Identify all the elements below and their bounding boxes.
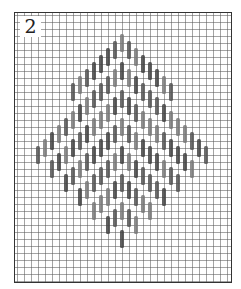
stitch <box>50 132 54 150</box>
stitch <box>113 125 117 143</box>
stitch <box>155 69 159 87</box>
stitch <box>92 118 96 136</box>
stitch <box>162 132 166 150</box>
stitch <box>134 216 138 234</box>
stitch <box>99 139 103 157</box>
stitch <box>120 146 124 164</box>
stitch <box>106 132 110 150</box>
stitch <box>148 174 152 192</box>
stitch <box>127 181 131 199</box>
stitch <box>99 111 103 129</box>
stitch <box>71 139 75 157</box>
figure-number: 2 <box>24 17 36 36</box>
stitch <box>106 160 110 178</box>
stitch <box>134 188 138 206</box>
stitch <box>99 55 103 73</box>
stitch <box>99 195 103 213</box>
stitch <box>148 202 152 220</box>
stitch <box>148 90 152 108</box>
stitch <box>134 132 138 150</box>
stitch <box>85 97 89 115</box>
stitch <box>85 153 89 171</box>
stitch <box>120 202 124 220</box>
stitch <box>141 167 145 185</box>
stitch <box>99 167 103 185</box>
stitch <box>204 146 208 164</box>
stitch <box>113 97 117 115</box>
stitch <box>148 62 152 80</box>
stitch <box>127 153 131 171</box>
stitch <box>85 69 89 87</box>
stitch <box>190 160 194 178</box>
stitch <box>127 125 131 143</box>
stitch-pattern <box>0 0 241 289</box>
stitch <box>134 48 138 66</box>
stitch <box>64 118 68 136</box>
stitch <box>190 132 194 150</box>
stitch <box>78 160 82 178</box>
stitch <box>71 167 75 185</box>
stitch <box>92 90 96 108</box>
stitch <box>162 76 166 94</box>
stitch <box>148 146 152 164</box>
stitch <box>106 188 110 206</box>
stitch <box>85 181 89 199</box>
stitch <box>197 139 201 157</box>
stitch <box>141 195 145 213</box>
stitch <box>71 111 75 129</box>
stitch <box>36 146 40 164</box>
stitch <box>57 125 61 143</box>
stitch <box>92 202 96 220</box>
stitch <box>113 41 117 59</box>
stitch <box>113 69 117 87</box>
stitch <box>57 153 61 171</box>
stitch <box>99 83 103 101</box>
stitch <box>71 83 75 101</box>
stitch <box>113 153 117 171</box>
stitch <box>155 153 159 171</box>
stitch <box>155 181 159 199</box>
stitch <box>78 132 82 150</box>
stitch <box>169 83 173 101</box>
stitch <box>85 125 89 143</box>
stitch <box>127 41 131 59</box>
stitch <box>127 69 131 87</box>
stitch <box>92 174 96 192</box>
stitch <box>176 118 180 136</box>
stitch <box>78 104 82 122</box>
figure-label: 2 <box>20 16 41 37</box>
stitch <box>92 62 96 80</box>
stitch <box>141 83 145 101</box>
stitch <box>106 104 110 122</box>
stitch <box>148 118 152 136</box>
stitch <box>162 188 166 206</box>
stitch <box>113 181 117 199</box>
stitch <box>78 76 82 94</box>
stitch <box>183 153 187 171</box>
stitch <box>162 104 166 122</box>
stitch <box>176 174 180 192</box>
stitch <box>106 216 110 234</box>
stitch <box>141 139 145 157</box>
stitch <box>169 167 173 185</box>
stitch <box>78 188 82 206</box>
stitch <box>155 125 159 143</box>
stitch <box>120 174 124 192</box>
stitch <box>120 118 124 136</box>
stitch <box>120 62 124 80</box>
stitch <box>162 160 166 178</box>
stitch <box>120 34 124 52</box>
stitch <box>120 230 124 248</box>
stitch <box>141 111 145 129</box>
stitch <box>64 146 68 164</box>
stitch <box>106 48 110 66</box>
stitch <box>127 209 131 227</box>
stitch <box>134 76 138 94</box>
stitch <box>106 76 110 94</box>
stitch <box>134 104 138 122</box>
stitch <box>50 160 54 178</box>
stitch <box>141 55 145 73</box>
stitch <box>169 139 173 157</box>
stitch <box>183 125 187 143</box>
stitch <box>169 111 173 129</box>
